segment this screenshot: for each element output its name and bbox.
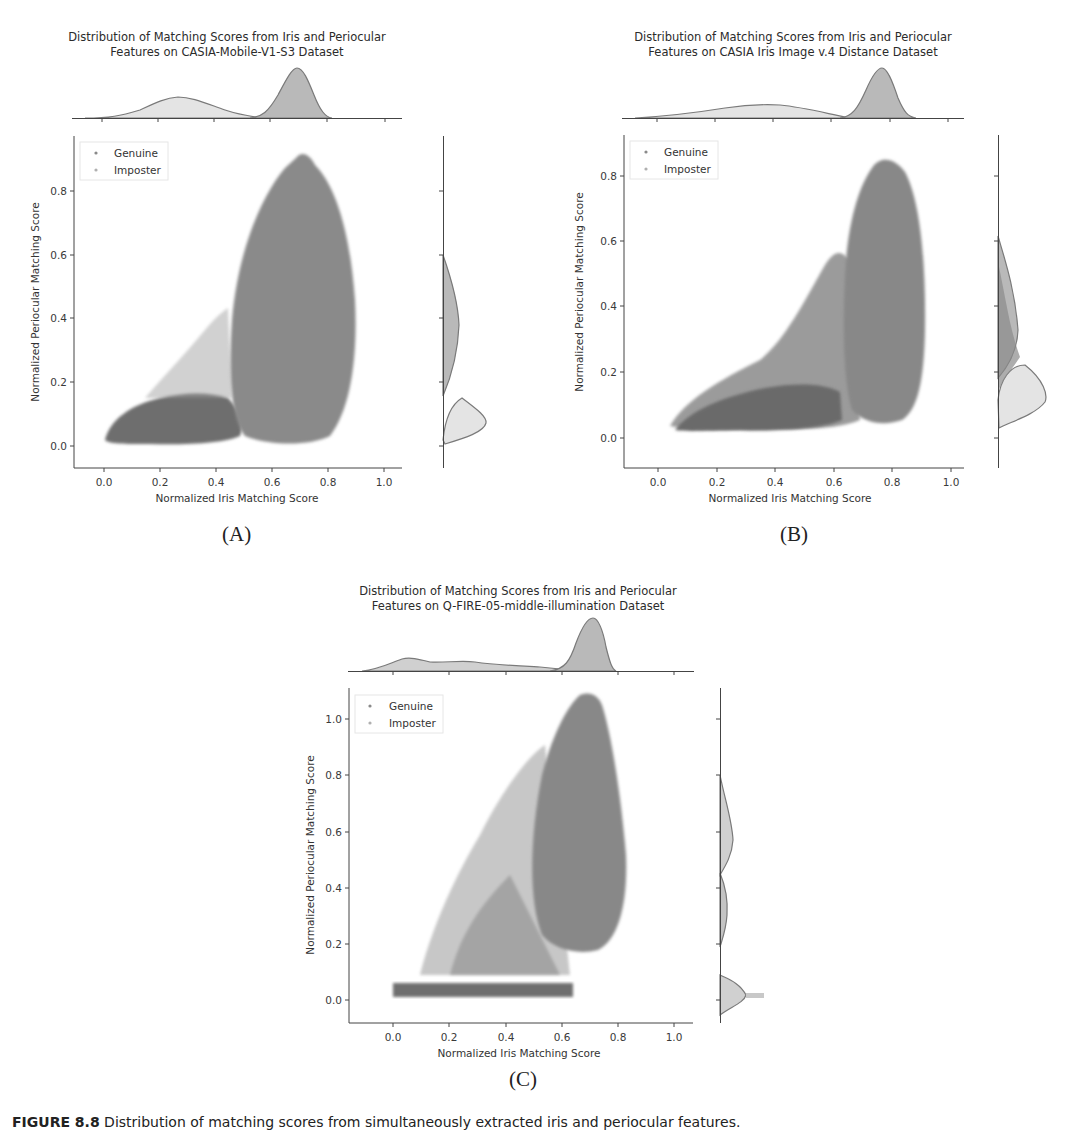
svg-text:0.4: 0.4	[600, 300, 617, 312]
chart-a-scatter	[105, 154, 356, 444]
figure-caption-label: FIGURE 8.8	[12, 1114, 100, 1130]
svg-text:0.8: 0.8	[600, 170, 617, 182]
chart-c-title-line2: Features on Q-FIRE-05-middle-illuminatio…	[372, 599, 665, 613]
chart-b-top-kde	[622, 68, 964, 122]
chart-c-ylabel: Normalized Periocular Matching Score	[304, 755, 316, 954]
svg-text:Imposter: Imposter	[114, 164, 161, 176]
chart-a-top-kde	[72, 68, 402, 122]
genuine-cluster	[231, 154, 356, 443]
chart-c-legend: Genuine Imposter	[355, 695, 443, 733]
panel-a-label: (A)	[222, 522, 251, 547]
figure-caption-text: Distribution of matching scores from sim…	[104, 1114, 740, 1130]
svg-text:Genuine: Genuine	[389, 700, 433, 712]
svg-text:0.6: 0.6	[264, 476, 281, 488]
imposter-cluster	[393, 983, 573, 997]
chart-b-legend: Genuine Imposter	[630, 141, 718, 179]
svg-text:0.0: 0.0	[600, 432, 617, 444]
chart-a-x-ticks: 0.0 0.2 0.4 0.6 0.8 1.0	[96, 468, 393, 488]
svg-text:Genuine: Genuine	[664, 146, 708, 158]
svg-text:0.2: 0.2	[600, 366, 617, 378]
figure-caption: FIGURE 8.8 Distribution of matching scor…	[12, 1114, 740, 1130]
chart-a: Distribution of Matching Scores from Iri…	[0, 0, 540, 560]
svg-text:0.0: 0.0	[96, 476, 113, 488]
svg-text:1.0: 1.0	[943, 476, 960, 488]
svg-text:0.0: 0.0	[50, 440, 67, 452]
svg-text:0.8: 0.8	[320, 476, 337, 488]
chart-c-scatter	[393, 693, 626, 997]
chart-a-title-line1: Distribution of Matching Scores from Iri…	[68, 30, 386, 44]
chart-c-top-kde	[348, 618, 694, 675]
svg-text:0.2: 0.2	[325, 938, 342, 950]
svg-text:0.2: 0.2	[152, 476, 169, 488]
panel-c: Distribution of Matching Scores from Iri…	[280, 555, 800, 1095]
svg-text:0.4: 0.4	[208, 476, 225, 488]
chart-a-xlabel: Normalized Iris Matching Score	[155, 492, 318, 504]
svg-text:Imposter: Imposter	[389, 717, 436, 729]
chart-b-right-kde	[994, 135, 1046, 468]
svg-text:0.0: 0.0	[650, 476, 667, 488]
legend-imposter-marker	[368, 721, 371, 724]
panel-c-label: (C)	[509, 1067, 537, 1092]
svg-text:Imposter: Imposter	[664, 163, 711, 175]
panel-b: Distribution of Matching Scores from Iri…	[540, 0, 1072, 560]
svg-text:0.2: 0.2	[441, 1031, 458, 1043]
svg-text:0.4: 0.4	[50, 312, 67, 324]
svg-text:0.6: 0.6	[554, 1031, 571, 1043]
chart-c-right-kde	[716, 688, 764, 1023]
chart-b-ylabel: Normalized Periocular Matching Score	[573, 192, 585, 391]
chart-b-scatter	[670, 160, 925, 431]
chart-b-title-line2: Features on CASIA Iris Image v.4 Distanc…	[648, 45, 938, 59]
legend-genuine-marker	[644, 150, 647, 153]
legend-genuine-marker	[94, 151, 97, 154]
legend-genuine-marker	[368, 704, 371, 707]
panel-a: Distribution of Matching Scores from Iri…	[0, 0, 540, 560]
chart-b-y-ticks: 0.0 0.2 0.4 0.6 0.8	[600, 170, 624, 444]
chart-b-xlabel: Normalized Iris Matching Score	[708, 492, 871, 504]
chart-c: Distribution of Matching Scores from Iri…	[280, 555, 800, 1095]
genuine-cluster	[844, 160, 925, 423]
svg-text:0.6: 0.6	[826, 476, 843, 488]
svg-text:0.8: 0.8	[610, 1031, 627, 1043]
chart-c-xlabel: Normalized Iris Matching Score	[437, 1047, 600, 1059]
svg-text:0.2: 0.2	[709, 476, 726, 488]
chart-a-y-ticks: 0.0 0.2 0.4 0.6 0.8	[50, 185, 74, 452]
svg-text:0.6: 0.6	[325, 826, 342, 838]
svg-text:0.8: 0.8	[325, 769, 342, 781]
svg-text:0.8: 0.8	[50, 185, 67, 197]
chart-b: Distribution of Matching Scores from Iri…	[540, 0, 1072, 560]
panel-b-label: (B)	[780, 522, 808, 547]
svg-text:0.6: 0.6	[50, 249, 67, 261]
svg-text:1.0: 1.0	[666, 1031, 683, 1043]
chart-a-ylabel: Normalized Periocular Matching Score	[29, 202, 41, 401]
chart-a-legend: Genuine Imposter	[80, 142, 168, 180]
svg-text:1.0: 1.0	[376, 476, 393, 488]
genuine-cluster	[532, 693, 626, 951]
chart-a-right-kde	[439, 136, 486, 468]
svg-text:0.6: 0.6	[600, 235, 617, 247]
svg-text:0.4: 0.4	[325, 882, 342, 894]
svg-text:0.4: 0.4	[498, 1031, 515, 1043]
svg-text:0.8: 0.8	[884, 476, 901, 488]
chart-b-x-ticks: 0.0 0.2 0.4 0.6 0.8 1.0	[650, 468, 960, 488]
svg-text:Genuine: Genuine	[114, 147, 158, 159]
legend-imposter-marker	[94, 168, 97, 171]
chart-c-y-ticks: 0.0 0.2 0.4 0.6 0.8 1.0	[325, 713, 349, 1006]
svg-text:0.0: 0.0	[385, 1031, 402, 1043]
svg-text:0.4: 0.4	[767, 476, 784, 488]
chart-a-title-line2: Features on CASIA-Mobile-V1-S3 Dataset	[110, 45, 344, 59]
chart-c-x-ticks: 0.0 0.2 0.4 0.6 0.8 1.0	[385, 1023, 683, 1043]
legend-imposter-marker	[644, 167, 647, 170]
imposter-cluster	[105, 394, 242, 445]
svg-text:0.0: 0.0	[325, 994, 342, 1006]
chart-b-title-line1: Distribution of Matching Scores from Iri…	[634, 30, 952, 44]
chart-c-title-line1: Distribution of Matching Scores from Iri…	[359, 584, 677, 598]
svg-text:1.0: 1.0	[325, 713, 342, 725]
svg-text:0.2: 0.2	[50, 376, 67, 388]
